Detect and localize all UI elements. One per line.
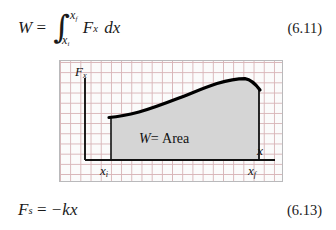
annotation-equals: = — [151, 131, 159, 146]
tick-label-x-final: xf — [248, 164, 256, 180]
integral-upper-limit: xf — [70, 8, 78, 23]
equation-spring-force: Fs = −kx — [18, 200, 78, 220]
annotation-text: Area — [162, 131, 189, 146]
y-axis-label-var: F — [75, 64, 83, 79]
shaded-work-area — [111, 79, 259, 160]
tick-xi-sub: i — [106, 171, 108, 179]
annotation-symbol: W — [139, 131, 151, 146]
integral-with-limits: ∫ xf xi — [53, 11, 75, 45]
integral-lower-limit: xi — [62, 33, 70, 48]
force-vs-position-figure: Fx x xi xf W= Area — [59, 60, 283, 182]
integrand-subscript: x — [93, 23, 98, 34]
equation-number-613: (6.13) — [287, 202, 322, 219]
equation-row-work-integral: W = ∫ xf xi Fx dx (6.11) — [0, 8, 336, 48]
equation-row-spring-force: Fs = −kx (6.13) — [0, 196, 336, 224]
equation-work-integral: W = ∫ xf xi Fx dx — [18, 11, 121, 45]
equation-number-611: (6.11) — [288, 20, 323, 37]
y-axis-label-sub: x — [83, 72, 87, 80]
spring-force-lhs-var: F — [18, 200, 29, 220]
equals-sign: = — [33, 200, 51, 220]
spring-force-rhs: −kx — [51, 200, 78, 220]
x-axis-label: x — [257, 144, 263, 158]
differential: dx — [104, 18, 120, 38]
integrand-variable: F — [83, 18, 94, 38]
upper-limit-sub: f — [76, 15, 78, 22]
work-equals-area-annotation: W= Area — [139, 132, 189, 146]
tick-xf-sub: f — [254, 171, 256, 179]
lower-limit-sub: i — [68, 40, 70, 47]
equation-lhs: W — [18, 18, 32, 38]
equals-sign: = — [32, 18, 50, 38]
y-axis-label: Fx — [75, 65, 87, 81]
tick-label-x-initial: xi — [100, 164, 108, 180]
